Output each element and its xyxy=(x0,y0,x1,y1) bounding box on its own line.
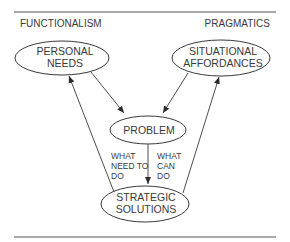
arrow-affordances-to-problem xyxy=(163,73,188,113)
arrow-solutions-to-affordances xyxy=(183,77,219,193)
heading-functionalism: FUNCTIONALISM xyxy=(20,18,102,29)
heading-pragmatics: PRAGMATICS xyxy=(205,18,271,29)
edge-label-left-line1: WHAT xyxy=(111,151,135,161)
edge-label-right-line3: DO xyxy=(157,171,170,181)
edge-label-left-line3: DO xyxy=(111,171,124,181)
edge-label-left-line2: NEED TO xyxy=(111,161,149,171)
diagram-canvas: FUNCTIONALISM PRAGMATICS PERSONAL NEEDS … xyxy=(0,0,290,242)
node-personal-needs-line2: NEEDS xyxy=(47,57,83,69)
node-personal-needs-line1: PERSONAL xyxy=(36,45,93,57)
edge-label-right-line1: WHAT xyxy=(157,151,181,161)
arrow-solutions-to-needs xyxy=(69,76,114,192)
node-situational-line2: AFFORDANCES xyxy=(183,57,262,69)
node-situational-line1: SITUATIONAL xyxy=(189,45,257,57)
node-problem-label: PROBLEM xyxy=(123,124,174,136)
node-situational-affordances: SITUATIONAL AFFORDANCES xyxy=(172,40,270,76)
node-personal-needs: PERSONAL NEEDS xyxy=(15,41,109,75)
edge-label-what-can-do: WHAT CAN DO xyxy=(157,151,181,181)
edge-label-what-need-to-do: WHAT NEED TO DO xyxy=(111,151,149,181)
arrow-needs-to-problem xyxy=(91,72,124,113)
node-strategic-line2: SOLUTIONS xyxy=(116,203,177,215)
node-problem: PROBLEM xyxy=(110,116,186,144)
node-strategic-line1: STRATEGIC xyxy=(116,191,176,203)
edge-label-right-line2: CAN xyxy=(157,161,175,171)
